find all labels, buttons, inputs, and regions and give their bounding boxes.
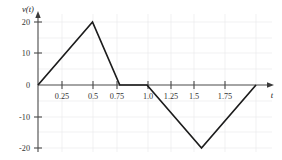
x-axis-title: t (271, 90, 274, 100)
y-tick-labels: 20 10 0 -10 -20 (19, 18, 30, 153)
x-tick-label: 1.5 (189, 92, 199, 101)
x-tick-label: 1.0 (143, 92, 153, 101)
x-tick-label: 1.75 (218, 92, 232, 101)
y-tick-label: 10 (22, 49, 30, 58)
x-tick-label: 0.75 (110, 92, 124, 101)
plot-canvas: 0.25 0.5 0.75 1.0 1.25 1.5 1.75 20 10 0 … (0, 0, 282, 160)
y-tick-label: -10 (19, 113, 30, 122)
x-tick-labels: 0.25 0.5 0.75 1.0 1.25 1.5 1.75 (55, 92, 232, 101)
y-tick-label: 0 (26, 81, 30, 90)
waveform-figure: 0.25 0.5 0.75 1.0 1.25 1.5 1.75 20 10 0 … (0, 0, 282, 160)
x-tick-label: 0.5 (88, 92, 98, 101)
x-tick-label: 1.25 (164, 92, 178, 101)
y-axis-arrowhead (35, 11, 40, 18)
y-tick-label: 20 (22, 18, 30, 27)
axes-group (35, 11, 274, 152)
x-axis-arrowhead (267, 82, 274, 87)
y-tick-label: -20 (19, 144, 30, 153)
grid-group (38, 14, 272, 152)
y-axis-title: v(t) (22, 4, 34, 14)
x-tick-label: 0.25 (55, 92, 69, 101)
